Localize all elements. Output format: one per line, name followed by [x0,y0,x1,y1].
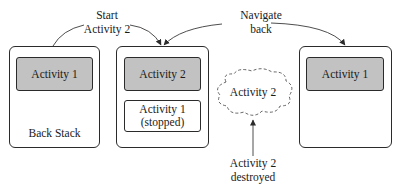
stopped-state-label: (stopped) [141,116,184,129]
destroyed-caption-line1: Activity 2 [218,156,288,170]
stopped-activity-name: Activity 1 [139,103,185,116]
activity-1-stopped-box: Activity 1 (stopped) [124,100,201,132]
activity-1-label: Activity 1 [31,68,77,81]
back-arrow-left-curve [164,24,222,45]
navigate-back-label: Navigate back [226,8,296,36]
destroyed-caption-line2: destroyed [218,170,288,184]
start-activity-label: Start Activity 2 [77,8,137,36]
back-label-line2: back [226,22,296,36]
activity-1-box-stack-1: Activity 1 [16,57,93,91]
activity-2-box-stack-2: Activity 2 [124,57,201,91]
destroyed-cloud-label: Activity 2 [218,85,288,99]
start-label-line1: Start [77,8,137,22]
activity-1-box-stack-3: Activity 1 [306,57,384,91]
destroyed-caption: Activity 2 destroyed [218,156,288,184]
back-stack-caption: Back Stack [9,126,100,140]
back-label-line1: Navigate [226,8,296,22]
activity-1-label-stack-3: Activity 1 [322,68,368,81]
activity-2-label: Activity 2 [139,68,185,81]
start-label-line2: Activity 2 [77,22,137,36]
